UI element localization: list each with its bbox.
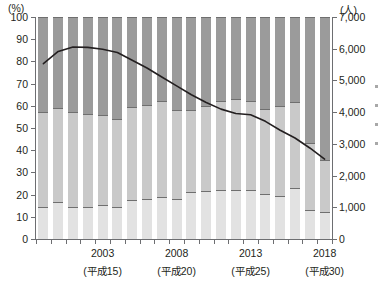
left-tick-mark: [31, 150, 35, 151]
x-tick-mark: [214, 240, 215, 244]
x-tick-mark: [228, 240, 229, 244]
left-tick-mark: [31, 39, 35, 40]
left-tick-mark: [31, 195, 35, 196]
x-axis-year-label: 2013: [211, 247, 291, 259]
rate-line-path: [43, 47, 324, 159]
right-tick-mark: [333, 17, 337, 18]
legend-marker-1: [375, 104, 378, 107]
x-tick-mark: [273, 240, 274, 244]
left-tick-mark: [31, 106, 35, 107]
left-tick-label: 20: [0, 190, 28, 200]
x-tick-mark: [36, 240, 37, 244]
legend-marker-2: [375, 123, 378, 126]
right-tick-label: 2,000: [339, 171, 379, 181]
left-tick-label: 90: [0, 34, 28, 44]
x-axis-era-label: (平成30): [285, 263, 365, 278]
x-tick-mark: [317, 240, 318, 244]
x-axis-year-label: 2008: [137, 247, 217, 259]
right-tick-label: 3,000: [339, 139, 379, 149]
left-tick-label: 10: [0, 212, 28, 222]
x-axis-year-label: 2018: [285, 247, 365, 259]
right-tick-label: 6,000: [339, 44, 379, 54]
x-tick-mark: [80, 240, 81, 244]
x-tick-mark: [332, 240, 333, 244]
left-tick-mark: [31, 217, 35, 218]
left-tick-mark: [31, 239, 35, 240]
x-axis-era-label: (平成20): [137, 263, 217, 278]
x-tick-mark: [140, 240, 141, 244]
chart-container: (%) (人) 0102030405060708090100 01,0002,0…: [0, 0, 385, 282]
x-tick-mark: [302, 240, 303, 244]
x-tick-mark: [125, 240, 126, 244]
x-tick-mark: [169, 240, 170, 244]
left-tick-mark: [31, 17, 35, 18]
right-tick-mark: [333, 239, 337, 240]
left-tick-label: 60: [0, 101, 28, 111]
left-tick-mark: [31, 128, 35, 129]
left-tick-mark: [31, 172, 35, 173]
x-axis-year-label: 2003: [63, 247, 143, 259]
right-tick-mark: [333, 144, 337, 145]
x-tick-mark: [184, 240, 185, 244]
left-tick-label: 100: [0, 12, 28, 22]
line-series-overlay: [36, 17, 332, 239]
right-tick-mark: [333, 112, 337, 113]
x-tick-mark: [288, 240, 289, 244]
left-tick-mark: [31, 61, 35, 62]
right-tick-mark: [333, 49, 337, 50]
x-tick-mark: [154, 240, 155, 244]
x-tick-mark: [95, 240, 96, 244]
right-tick-mark: [333, 207, 337, 208]
left-tick-label: 40: [0, 145, 28, 155]
x-tick-mark: [258, 240, 259, 244]
left-tick-label: 70: [0, 79, 28, 89]
right-tick-label: 1,000: [339, 202, 379, 212]
right-tick-label: 4,000: [339, 107, 379, 117]
x-axis-era-label: (平成15): [63, 263, 143, 278]
left-tick-label: 30: [0, 167, 28, 177]
left-tick-label: 80: [0, 56, 28, 66]
x-tick-mark: [110, 240, 111, 244]
x-tick-mark: [243, 240, 244, 244]
left-tick-mark: [31, 84, 35, 85]
left-tick-label: 0: [0, 234, 28, 244]
right-tick-label: 0: [339, 234, 379, 244]
right-tick-label: 5,000: [339, 75, 379, 85]
right-tick-label: 7,000: [339, 12, 379, 22]
legend-marker-0: [375, 85, 378, 88]
left-tick-label: 50: [0, 123, 28, 133]
x-tick-mark: [199, 240, 200, 244]
x-axis-era-label: (平成25): [211, 263, 291, 278]
right-tick-mark: [333, 176, 337, 177]
x-tick-mark: [66, 240, 67, 244]
legend-marker-3: [375, 142, 378, 145]
right-tick-mark: [333, 80, 337, 81]
x-tick-mark: [51, 240, 52, 244]
